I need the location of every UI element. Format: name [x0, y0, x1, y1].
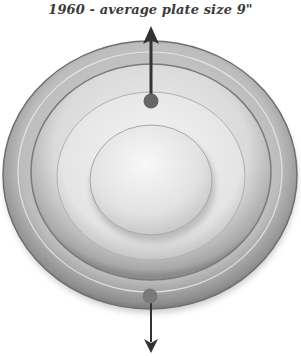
top-measure-dot [144, 94, 159, 109]
bottom-measure-dot [143, 289, 158, 304]
inner-plate-dome [90, 125, 212, 235]
plate-diagram [0, 0, 301, 357]
